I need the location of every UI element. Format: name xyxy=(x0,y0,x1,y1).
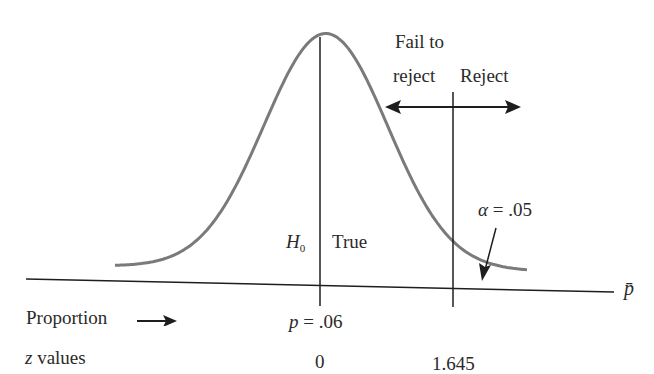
proportion-value: p = .06 xyxy=(289,312,342,331)
z-center-value: 0 xyxy=(315,352,325,371)
alpha-value: = .05 xyxy=(493,199,532,220)
h0-label: H0 xyxy=(286,232,305,254)
true-label: True xyxy=(332,232,367,251)
z-values-row-label: z values xyxy=(25,348,86,367)
fail-to-reject-label-line2: reject xyxy=(393,66,435,85)
reject-label: Reject xyxy=(460,66,509,85)
alpha-pointer-head xyxy=(479,263,491,281)
fail-to-reject-label-line1: Fail to xyxy=(395,32,444,51)
alpha-label: α = .05 xyxy=(478,200,532,219)
h-subscript: 0 xyxy=(300,242,306,254)
z-symbol: z xyxy=(25,347,32,368)
z-values-text: values xyxy=(37,347,86,368)
p-symbol: p xyxy=(289,311,299,332)
h-symbol: H xyxy=(286,231,300,252)
p-bar-axis-label: p̄ xyxy=(624,278,634,298)
proportion-row-label: Proportion xyxy=(26,308,107,327)
z-critical-value: 1.645 xyxy=(432,354,475,373)
alpha-symbol: α xyxy=(478,199,488,220)
p-value-text: = .06 xyxy=(303,311,342,332)
